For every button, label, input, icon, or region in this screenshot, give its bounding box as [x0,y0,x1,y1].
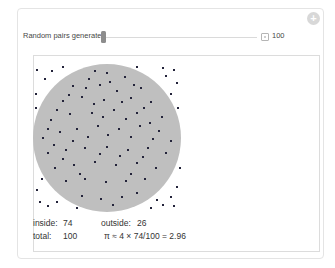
sample-point [62,66,64,68]
sample-point [130,173,132,175]
sample-point [113,109,115,111]
sample-point [176,82,178,84]
sample-point [56,109,58,111]
sample-point [97,125,99,127]
monte-carlo-pi-widget: Random pairs generated 100 + inside: 74 … [0,0,335,268]
sample-point [100,198,102,200]
sample-point [47,152,49,154]
sample-point [115,164,117,166]
outside-value: 26 [137,218,146,228]
sample-point [99,84,101,86]
sample-point [50,119,52,121]
sample-point [162,67,164,69]
sample-point [136,192,138,194]
sample-point [147,147,149,149]
sample-point [44,78,46,80]
sample-point [85,87,87,89]
sample-point [91,112,93,114]
sample-point [41,178,43,180]
sample-point [56,201,58,203]
sample-point [87,136,89,138]
sample-point [121,196,123,198]
sample-point [124,76,126,78]
sample-point [72,85,74,87]
sample-point [118,128,120,130]
sample-point [35,93,37,95]
sample-point [112,204,114,206]
sample-point [99,153,101,155]
sample-point [73,164,75,166]
sample-point [140,87,142,89]
sample-point [162,204,164,206]
sample-point [155,167,157,169]
sample-point [116,90,118,92]
sample-point [35,107,37,109]
sample-point [103,99,105,101]
sample-point [54,167,56,169]
sample-point [39,201,41,203]
sample-point [36,189,38,191]
slider-value: 100 [272,31,285,40]
sample-point [125,180,127,182]
sample-point [47,128,49,130]
sample-point [76,207,78,209]
sample-point [62,158,64,160]
sample-point [65,149,67,151]
sample-point [51,70,53,72]
plus-icon: + [310,13,316,24]
sample-point [161,116,163,118]
sample-point [59,131,61,133]
pi-formula: π ≈ 4 × 74/100 = 2.96 [104,231,186,241]
sample-point [69,113,71,115]
sample-point [107,134,109,136]
total-value: 100 [63,231,77,241]
sample-point [47,205,49,207]
sample-point [106,72,108,74]
sample-point [179,167,181,169]
sample-point [144,178,146,180]
sample-point [79,173,81,175]
inside-label: inside: [33,218,58,228]
sample-point [36,69,38,71]
sample-point [127,149,129,151]
sample-point [156,199,158,201]
sample-point [149,122,151,124]
sample-point [150,207,152,209]
sample-point [106,146,108,148]
sample-point [42,137,44,139]
sample-point [125,118,127,120]
random-pairs-slider-track[interactable] [100,37,257,38]
outside-label: outside: [101,218,131,228]
sample-point [133,84,135,86]
total-label: total: [33,231,51,241]
sample-point [136,112,138,114]
sample-point [143,107,145,109]
sample-point [53,144,55,146]
inside-value: 74 [63,218,72,228]
sample-point [93,103,95,105]
sample-point [136,66,138,68]
sample-point [173,69,175,71]
sample-point [150,101,152,103]
sample-point [81,96,83,98]
sample-point [165,152,167,154]
sample-point [170,140,172,142]
sample-point [65,180,67,182]
sample-point [165,75,167,77]
sample-point [142,156,144,158]
random-pairs-slider-thumb[interactable] [101,31,106,43]
sample-point [94,161,96,163]
slider-label: Random pairs generated [23,31,106,40]
sample-point [84,147,86,149]
input-field-toggle-icon[interactable] [261,33,269,41]
sample-point [152,138,154,140]
sample-point [109,81,111,83]
sample-point [72,140,74,142]
sample-point [130,97,132,99]
show-controls-button[interactable]: + [307,12,320,25]
sample-point [68,94,70,96]
sample-point [136,162,138,164]
sample-point [76,128,78,130]
sample-point [170,93,172,95]
sample-point [88,78,90,80]
